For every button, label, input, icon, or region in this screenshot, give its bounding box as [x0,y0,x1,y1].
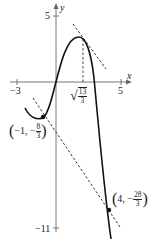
x-tick-label-max: 5 [118,86,123,96]
sqrt-label: √ 13 3 [70,87,87,104]
x-axis-label: x [127,71,131,81]
point-label-p2: (4, − 28 3 ) [112,191,148,207]
y-tick-label-max: 5 [45,11,50,21]
y-tick-label-min: −11 [35,224,50,234]
sqrt-icon: √ [70,88,78,103]
point-label-p1: (−1, − 8 3 ) [9,123,47,139]
y-axis-arrow-icon [54,3,59,9]
p2-x-text: 4, − [117,193,133,204]
point-p1-marker [41,115,45,119]
sqrt-denominator: 3 [81,97,85,105]
p1-x-text: −1, − [14,125,35,136]
paren-close: ) [142,190,147,207]
x-tick-label-min: −3 [10,86,21,96]
tangent-line [73,24,106,69]
p2-denominator: 3 [136,200,140,208]
y-axis-label: y [60,3,64,13]
point-p2-marker [107,208,111,212]
p1-denominator: 3 [37,132,41,140]
paren-close: ) [41,122,46,139]
